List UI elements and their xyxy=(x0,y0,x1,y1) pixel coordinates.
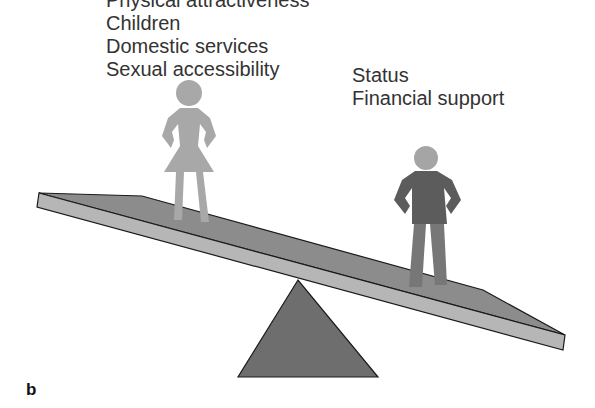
woman-figure xyxy=(162,80,216,222)
woman-head xyxy=(176,80,202,106)
seesaw-diagram xyxy=(0,0,595,408)
panel-label: b xyxy=(26,380,36,400)
man-jacket xyxy=(394,171,461,224)
man-head xyxy=(414,146,438,170)
man-figure xyxy=(394,146,461,287)
woman-torso xyxy=(162,108,216,172)
